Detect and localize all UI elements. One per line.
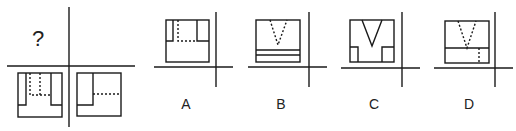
option-a-label[interactable]: A	[181, 96, 190, 112]
question-mark: ?	[32, 26, 44, 52]
three-view-puzzle	[0, 0, 516, 131]
option-c-figure[interactable]	[341, 12, 420, 87]
option-b-figure[interactable]	[248, 12, 327, 87]
option-d-label[interactable]: D	[464, 96, 474, 112]
option-d-figure[interactable]	[434, 12, 513, 87]
option-b-label[interactable]: B	[276, 96, 285, 112]
option-a-figure[interactable]	[154, 12, 233, 87]
given-view-side	[77, 73, 121, 116]
given-view-front	[18, 73, 62, 117]
option-c-label[interactable]: C	[369, 96, 379, 112]
question-axes	[7, 7, 135, 127]
